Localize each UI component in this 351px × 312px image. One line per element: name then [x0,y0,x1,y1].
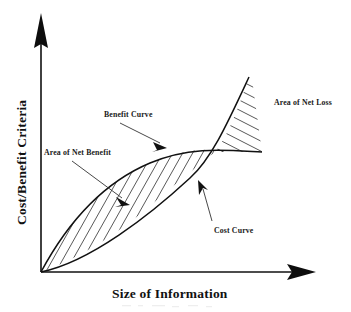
y-axis-arrowhead-icon [34,13,48,48]
cost-benefit-chart: Benefit Curve Area of Net Benefit Cost C… [0,0,351,312]
x-axis-label: Size of Information [112,286,228,301]
cost-curve-leader-line [203,189,212,221]
annotation-cost-curve: Cost Curve [198,180,254,235]
scan-artifacts [122,305,212,307]
annotation-benefit-curve: Benefit Curve [104,110,167,152]
area-of-net-loss-label: Area of Net Loss [274,98,332,107]
axes-group [34,13,316,280]
y-axis-label: Cost/Benefit Criteria [14,100,29,225]
benefit-curve-leader-line [120,123,160,143]
cost-curve-label: Cost Curve [214,226,254,235]
cost-curve-leader-arrow-icon [198,180,208,195]
benefit-curve-label: Benefit Curve [104,110,153,119]
annotation-area-of-net-loss: Area of Net Loss [274,98,332,107]
benefit-curve-leader-arrow-icon [152,142,167,152]
area-of-net-benefit-leader-arrow-icon [115,197,130,207]
annotation-area-of-net-benefit: Area of Net Benefit [44,148,130,207]
area-of-net-benefit-leader-line [72,161,122,198]
net-loss-hatching [200,60,290,206]
area-of-net-benefit-label: Area of Net Benefit [44,148,111,157]
